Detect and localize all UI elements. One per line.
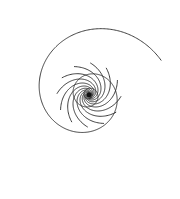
spiral-ring	[39, 29, 161, 133]
spiral-center-dot	[87, 93, 91, 97]
spiral-grid-diagram	[0, 0, 180, 199]
spiral-rings	[39, 29, 161, 133]
